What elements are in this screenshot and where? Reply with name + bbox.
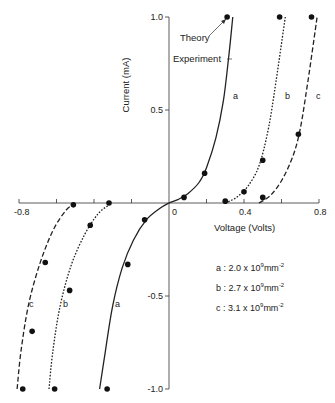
curve-label-b: b bbox=[285, 91, 290, 101]
theory-point-a bbox=[202, 170, 208, 176]
theory-point-b bbox=[67, 288, 73, 294]
theory-point-b bbox=[277, 14, 283, 20]
experiment-curve-c bbox=[17, 205, 73, 389]
theory-point-c bbox=[260, 195, 266, 201]
theory-point-a bbox=[224, 14, 230, 20]
theory-point-b bbox=[52, 386, 58, 392]
y-tick-label: -0.5 bbox=[147, 291, 163, 301]
y-tick-label: 1.0 bbox=[150, 12, 163, 22]
legend: a : 2.0 x 109mm-2 b : 2.7 x 109mm-2 c : … bbox=[216, 262, 284, 322]
theory-point-a bbox=[181, 195, 187, 201]
theory-point-b bbox=[87, 223, 93, 229]
y-tick-label: 0.5 bbox=[150, 105, 163, 115]
theory-point-c bbox=[309, 14, 315, 20]
curve-label-a: a bbox=[233, 91, 238, 101]
x-tick-label: 0.4 bbox=[239, 207, 252, 217]
legend-item-b: b : 2.7 x 109mm-2 bbox=[216, 282, 284, 302]
curve-label-c: c bbox=[29, 299, 34, 309]
y-tick-label: -1.0 bbox=[147, 384, 163, 394]
theory-point-b bbox=[106, 200, 112, 206]
legend-item-a: a : 2.0 x 109mm-2 bbox=[216, 262, 284, 282]
curve-label-b: b bbox=[63, 299, 68, 309]
x-tick-label: -0.8 bbox=[14, 207, 30, 217]
iv-chart: -0.800.40.81.00.5-0.5-1.0Voltage (Volts)… bbox=[0, 0, 335, 403]
curve-label-c: c bbox=[316, 91, 321, 101]
theory-point-a bbox=[142, 217, 148, 223]
y-axis-title: Current (mA) bbox=[120, 58, 131, 113]
theory-point-b bbox=[222, 198, 228, 204]
experiment-curve-c bbox=[259, 17, 317, 203]
theory-point-b bbox=[260, 157, 266, 163]
x-tick-label: 0 bbox=[172, 207, 177, 217]
theory-point-a bbox=[125, 262, 131, 268]
experiment-curve-b bbox=[49, 205, 109, 389]
theory-point-c bbox=[29, 329, 35, 335]
theory-annotation: Theory bbox=[180, 32, 210, 43]
legend-item-c: c : 3.1 x 109mm-2 bbox=[216, 302, 284, 322]
theory-point-c bbox=[20, 386, 26, 392]
experiment-curve-b bbox=[225, 17, 285, 203]
theory-point-c bbox=[296, 131, 302, 137]
theory-point-b bbox=[241, 189, 247, 195]
experiment-annotation: Experiment bbox=[173, 53, 221, 64]
theory-point-a bbox=[104, 386, 110, 392]
curve-label-a: a bbox=[115, 299, 120, 309]
x-axis-title: Voltage (Volts) bbox=[214, 222, 275, 233]
theory-point-c bbox=[71, 202, 77, 208]
theory-point-c bbox=[42, 260, 48, 266]
x-tick-label: 0.8 bbox=[314, 207, 327, 217]
